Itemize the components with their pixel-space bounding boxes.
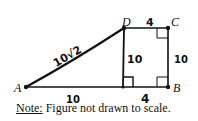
right-angle-mark-c	[157, 28, 168, 38]
label-segment-cb: 10	[174, 54, 188, 65]
label-b: B	[173, 81, 181, 95]
scale-note: Note: Figure not drawn to scale.	[16, 101, 171, 116]
vertex-a	[24, 85, 28, 89]
note-text: Figure not drawn to scale.	[43, 101, 171, 115]
right-angle-mark-e	[123, 77, 133, 87]
vertex-b	[166, 85, 170, 89]
vertex-e	[121, 85, 124, 88]
label-a: A	[13, 81, 22, 95]
label-segment-de: 10	[127, 53, 143, 66]
note-prefix: Note:	[16, 101, 43, 115]
right-angle-mark-b	[157, 77, 168, 87]
label-segment-dc: 4	[146, 16, 154, 29]
label-c: C	[171, 15, 180, 29]
vertex-c	[166, 26, 170, 30]
label-segment-ad: 10√2	[51, 43, 84, 69]
segment-de	[123, 28, 124, 87]
label-d: D	[121, 15, 131, 29]
